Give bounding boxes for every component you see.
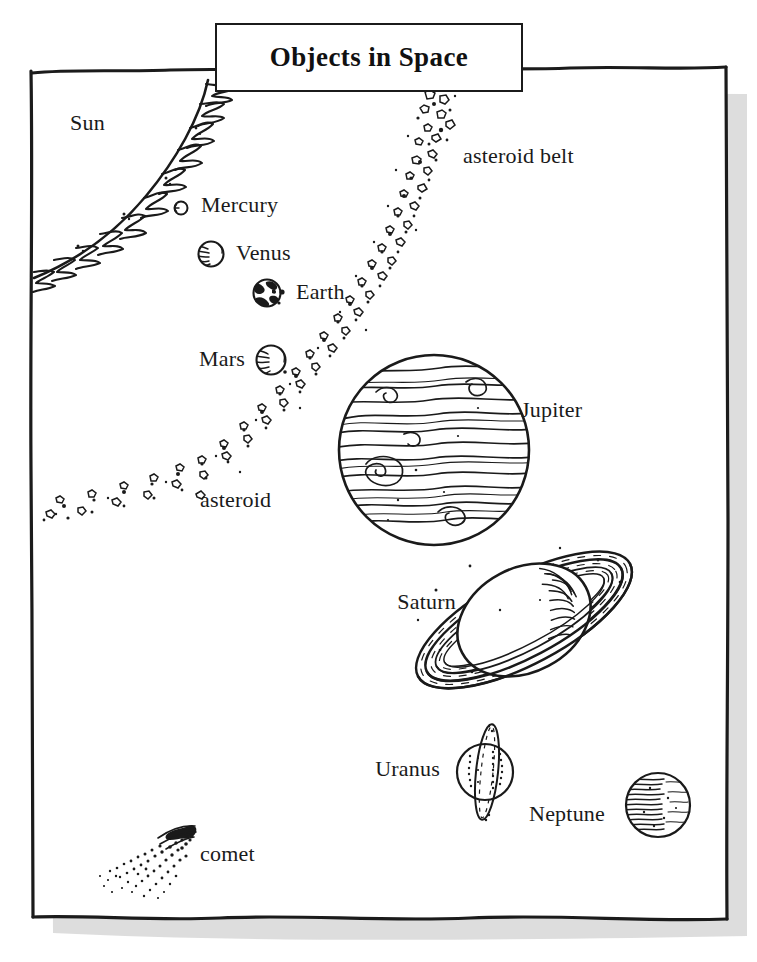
- label-saturn: Saturn: [322, 591, 456, 613]
- label-earth: Earth: [296, 281, 345, 303]
- label-sun: Sun: [70, 112, 105, 134]
- label-venus: Venus: [236, 242, 291, 264]
- label-neptune: Neptune: [433, 803, 605, 825]
- label-asteroid-belt: asteroid belt: [463, 145, 574, 167]
- label-uranus: Uranus: [318, 758, 440, 780]
- label-asteroid: asteroid: [200, 489, 271, 511]
- worksheet-page: Objects in Space Sun Mercury Venus Earth…: [0, 0, 757, 962]
- label-jupiter: Jupiter: [521, 399, 582, 421]
- title-box: Objects in Space: [215, 23, 523, 92]
- label-mars: Mars: [130, 348, 245, 370]
- page-title: Objects in Space: [270, 42, 468, 73]
- space-illustration: [0, 0, 757, 962]
- label-comet: comet: [200, 843, 255, 865]
- page-paper: [31, 67, 727, 919]
- label-mercury: Mercury: [201, 194, 278, 216]
